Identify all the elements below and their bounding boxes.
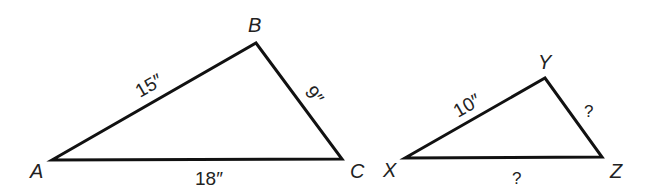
vertex-label-x: X — [382, 159, 397, 181]
triangle-abc: A B C 15″ 9″ 18″ — [29, 14, 365, 189]
triangle-xyz: X Y Z 10″ ? ? — [382, 51, 623, 188]
side-label-yz: ? — [584, 102, 593, 121]
side-label-ac: 18″ — [195, 168, 223, 189]
vertex-label-a: A — [29, 160, 43, 182]
vertex-label-c: C — [350, 160, 365, 182]
vertex-label-y: Y — [538, 51, 553, 73]
vertex-label-z: Z — [609, 160, 623, 182]
triangle-abc-outline — [52, 43, 342, 160]
side-label-bc: 9″ — [301, 82, 328, 109]
vertex-label-b: B — [248, 14, 261, 36]
similar-triangles-diagram: A B C 15″ 9″ 18″ X Y Z 10″ ? ? — [0, 0, 659, 190]
triangle-xyz-outline — [405, 78, 602, 158]
side-label-xz: ? — [512, 169, 521, 188]
